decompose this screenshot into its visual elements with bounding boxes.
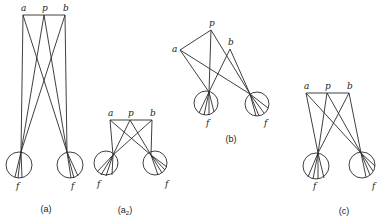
panel-a2: apbff(a2) xyxy=(94,108,170,216)
ray-a xyxy=(306,93,318,153)
fovea-label: f xyxy=(371,181,377,191)
point-label-b: b xyxy=(63,3,69,13)
ray-a xyxy=(306,93,361,153)
fovea-label: f xyxy=(312,181,318,191)
binocular-projection-diagram: apbff(a)apbff(a2)apbff(b)apbff(c) xyxy=(0,0,382,219)
fovea-label: f xyxy=(70,181,76,191)
panel-caption: (a) xyxy=(41,204,52,214)
eye-circle xyxy=(143,151,167,175)
point-label-b: b xyxy=(347,81,353,91)
diagram-svg: apbff(a)apbff(a2)apbff(b)apbff(c) xyxy=(0,0,382,219)
fovea-label: f xyxy=(15,181,21,191)
retinal-ray xyxy=(15,152,21,177)
panel-caption: (a2) xyxy=(118,205,132,216)
fovea-label: f xyxy=(205,118,211,128)
ray-a xyxy=(23,15,67,152)
eye-circle xyxy=(6,152,32,178)
point-label-a: a xyxy=(108,108,113,118)
retinal-ray xyxy=(313,153,318,179)
fovea-label: f xyxy=(164,179,170,189)
edge-a-p xyxy=(180,30,211,50)
point-label-b: b xyxy=(150,108,156,118)
point-label-a: a xyxy=(21,3,26,13)
ray-a xyxy=(180,50,209,92)
eye-right: f xyxy=(180,30,269,128)
ray-a xyxy=(21,15,23,152)
panel-b: apbff(b) xyxy=(172,18,269,144)
ray-a xyxy=(110,120,151,155)
ray-p xyxy=(21,15,44,152)
eye-left: f xyxy=(303,93,349,191)
point-label-p: p xyxy=(128,108,134,118)
point-label-a: a xyxy=(172,44,177,54)
ray-a xyxy=(110,120,113,155)
panel-caption: (c) xyxy=(339,206,350,216)
fovea-label: f xyxy=(263,118,269,128)
fovea-label: f xyxy=(96,179,102,189)
point-label-p: p xyxy=(325,81,331,91)
retinal-ray xyxy=(209,92,214,112)
point-label-p: p xyxy=(209,18,215,28)
point-label-a: a xyxy=(304,81,309,91)
panel-caption: (b) xyxy=(226,134,237,144)
ray-a xyxy=(180,50,250,94)
panel-a: apbff(a) xyxy=(6,3,83,214)
retinal-ray xyxy=(21,152,22,178)
ray-b xyxy=(113,120,152,155)
eye-circle xyxy=(194,91,218,115)
ray-b xyxy=(151,120,152,155)
point-label-p: p xyxy=(42,3,48,13)
ray-p xyxy=(209,30,211,92)
retinal-ray xyxy=(18,152,21,178)
ray-b xyxy=(349,93,361,153)
retinal-ray xyxy=(151,155,165,170)
retinal-ray xyxy=(204,92,209,115)
retinal-ray xyxy=(318,153,324,178)
retinal-ray xyxy=(199,92,209,113)
ray-b xyxy=(65,15,67,152)
panel-c: apbff(c) xyxy=(303,81,377,216)
ray-b xyxy=(21,15,65,152)
eye-left: f xyxy=(6,15,65,191)
point-label-b: b xyxy=(228,37,234,47)
ray-p xyxy=(44,15,67,152)
eye-left: f xyxy=(94,120,152,189)
retinal-ray xyxy=(308,153,318,177)
